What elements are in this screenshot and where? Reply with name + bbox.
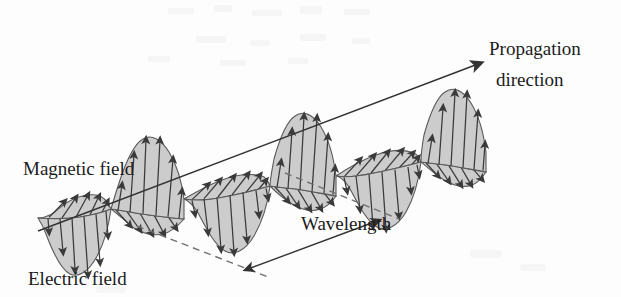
electromagnetic-wave-figure: Propagation direction Magnetic field Ele… [0, 0, 621, 297]
electric-field-label: Electric field [28, 268, 127, 289]
propagation-label-line1: Propagation [489, 38, 581, 59]
diagram-canvas: Propagation direction Magnetic field Ele… [0, 0, 621, 297]
wavelength-label: Wavelength [301, 213, 392, 234]
propagation-label-line2: direction [496, 69, 564, 90]
magnetic-field-label: Magnetic field [23, 158, 135, 179]
